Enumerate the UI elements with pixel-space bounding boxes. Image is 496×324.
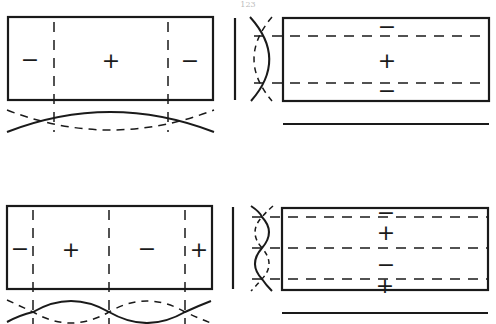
sign-minus: −	[181, 48, 199, 73]
page-number: 123	[240, 0, 255, 9]
sign-minus: −	[11, 236, 29, 261]
panel-bottom-left	[7, 206, 233, 324]
sign-plus: +	[377, 220, 395, 245]
sign-minus: −	[21, 47, 39, 72]
sign-plus: +	[190, 237, 208, 262]
sign-plus: +	[62, 237, 80, 262]
mode-shape-curve	[7, 112, 214, 132]
sign-minus: −	[378, 14, 396, 39]
sign-plus: +	[378, 48, 396, 73]
panel-bottom-right	[251, 206, 488, 313]
sign-plus: +	[376, 273, 394, 298]
panel-top-right	[250, 17, 489, 124]
mode-shape-diagram: 123 − + − − + − − + − +	[0, 0, 496, 324]
sign-minus: −	[138, 236, 156, 261]
sign-plus: +	[102, 48, 120, 73]
panel-top-left	[7, 17, 235, 132]
mode-shape-curve	[250, 17, 269, 101]
sign-minus: −	[378, 78, 396, 103]
